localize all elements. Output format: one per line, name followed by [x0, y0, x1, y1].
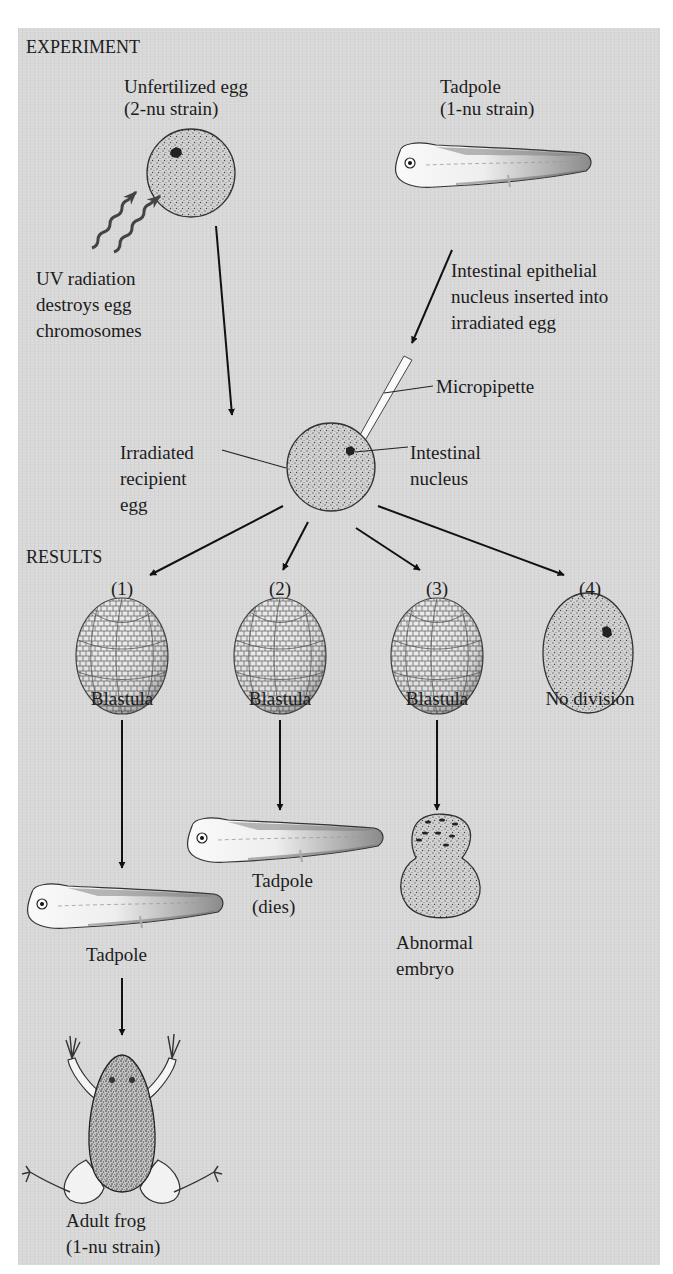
result-3-outcome: Abnormal embryo [396, 930, 473, 982]
adult-frog-icon [22, 1034, 222, 1203]
abnormal-embryo-icon [401, 814, 480, 918]
transfer-note: Intestinal epithelial nucleus inserted i… [451, 258, 608, 336]
donor-tadpole-label: Tadpole (1-nu strain) [440, 76, 534, 120]
result-3-number: (3) [426, 578, 448, 600]
results-heading: RESULTS [26, 546, 102, 568]
result-arrows [150, 506, 564, 575]
tadpole-icon [187, 818, 382, 862]
result-4-stage: No division [545, 688, 634, 710]
result-3-stage: Blastula [406, 688, 468, 710]
result-4-number: (4) [579, 578, 601, 600]
experiment-heading: EXPERIMENT [26, 36, 140, 58]
arrow-egg-to-recipient [216, 226, 232, 415]
recipient-egg-label: Irradiated recipient egg [120, 440, 194, 518]
tadpole-icon [27, 884, 222, 928]
result-2-number: (2) [269, 578, 291, 600]
donor-egg-label: Unfertilized egg (2-nu strain) [124, 76, 248, 120]
intestinal-nucleus-label: Intestinal nucleus [410, 440, 481, 492]
result-1-outcome: Tadpole [86, 944, 147, 966]
tadpole-icon [395, 143, 590, 187]
result-1-number: (1) [111, 578, 133, 600]
uv-radiation-icon [92, 192, 160, 252]
micropipette-label: Micropipette [436, 376, 534, 398]
diagram-artwork [0, 0, 673, 1274]
recipient-egg-icon [287, 423, 375, 511]
result-2-outcome: Tadpole (dies) [252, 868, 313, 920]
result-1-stage: Blastula [91, 688, 153, 710]
uv-note: UV radiation destroys egg chromosomes [36, 266, 142, 344]
recipient-egg-leader [222, 450, 286, 468]
arrow-tadpole-to-pipette [412, 250, 452, 343]
result-1-final: Adult frog (1-nu strain) [66, 1208, 160, 1260]
result-2-stage: Blastula [249, 688, 311, 710]
unfertilized-egg-icon [147, 129, 235, 217]
